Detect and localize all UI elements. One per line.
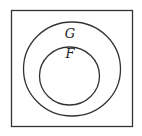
- venn-diagram: G F: [0, 0, 142, 136]
- set-g-label: G: [65, 26, 75, 41]
- set-f-label: F: [64, 46, 75, 61]
